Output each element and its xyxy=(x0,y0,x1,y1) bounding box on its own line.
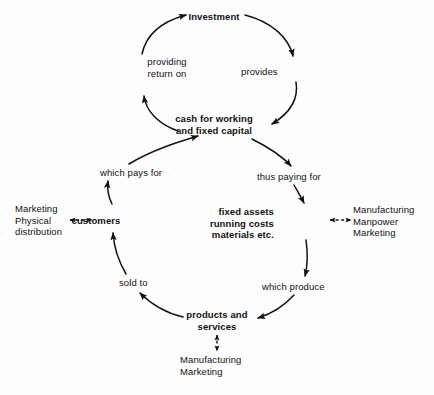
cycle-diagram: Investment cash for working and fixed ca… xyxy=(0,0,434,395)
edge-provides-to-cash xyxy=(272,82,297,124)
node-customers: customers xyxy=(72,215,121,227)
edge-label-which-produce: which produce xyxy=(262,281,325,293)
edge-returnon-to-investment xyxy=(142,15,186,54)
node-fixed-assets-running-costs-materials: fixed assets running costs materials etc… xyxy=(210,206,274,241)
node-products-and-services: products and services xyxy=(186,309,247,332)
node-investment: Investment xyxy=(188,11,239,23)
edge-label-providing-return-on: providing return on xyxy=(147,56,186,79)
edge-label-thus-paying-for: thus paying for xyxy=(257,171,321,183)
edge-investment-to-provides xyxy=(245,15,293,56)
edge-label-which-pays-for: which pays for xyxy=(100,167,162,179)
edge-products-to-soldto xyxy=(140,293,183,317)
side-label-manufacturing-manpower-marketing: Manufacturing Manpower Marketing xyxy=(353,204,415,239)
edge-label-provides: provides xyxy=(241,66,278,78)
edge-soldto-to-customers xyxy=(113,233,126,274)
edge-thuspaying-to-fixedassets xyxy=(294,185,304,203)
edge-customers-to-paysfor xyxy=(108,181,112,204)
side-label-manufacturing-marketing: Manufacturing Marketing xyxy=(180,354,242,377)
side-label-marketing-physical-distribution: Marketing Physical distribution xyxy=(15,203,62,238)
edge-produce-to-products xyxy=(258,295,294,318)
node-cash-for-working-and-fixed-capital: cash for working and fixed capital xyxy=(175,113,253,136)
diagram-canvas xyxy=(0,0,434,395)
edge-fixedassets-to-produce xyxy=(305,240,307,276)
edge-cash-to-thuspaying xyxy=(252,139,291,166)
edge-label-sold-to: sold to xyxy=(119,277,148,289)
edge-cash-to-returnon xyxy=(144,96,178,131)
edge-paysfor-to-cash xyxy=(129,136,198,164)
